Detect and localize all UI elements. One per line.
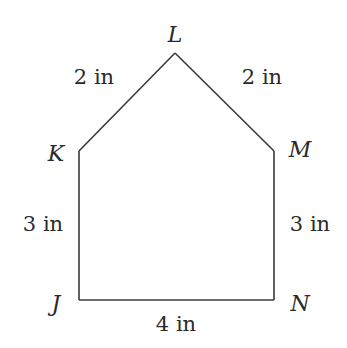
vertex-label-n: N [289, 291, 310, 316]
side-label-kl: 2 in [74, 65, 114, 89]
vertex-label-l: L [167, 22, 183, 47]
side-label-jn: 4 in [156, 312, 196, 336]
side-label-lm: 2 in [242, 65, 282, 89]
vertex-label-m: M [288, 137, 312, 162]
vertex-label-j: J [48, 291, 62, 316]
side-label-jk: 3 in [23, 212, 63, 236]
side-label-mn: 3 in [290, 212, 330, 236]
vertex-label-k: K [47, 141, 66, 166]
pentagon-diagram: L K M J N 2 in 2 in 3 in 3 in 4 in [0, 0, 347, 348]
